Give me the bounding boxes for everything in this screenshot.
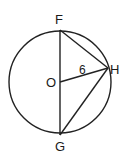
- chord-gh: [60, 68, 108, 135]
- label-f: F: [55, 12, 63, 27]
- label-h: H: [110, 62, 119, 77]
- radius-length-label: 6: [79, 63, 86, 77]
- label-g: G: [55, 139, 65, 154]
- label-o: O: [46, 75, 56, 90]
- circle-diagram: F H O G 6: [0, 0, 127, 159]
